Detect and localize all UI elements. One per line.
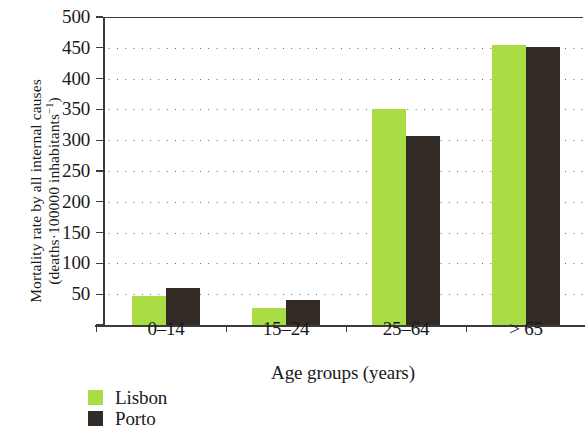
x-axis-tick	[346, 325, 347, 332]
y-axis-tick-label: 400	[62, 67, 96, 89]
y-axis-tick-label: 350	[62, 98, 96, 120]
x-axis-category-label: 25–64	[383, 318, 430, 340]
y-axis-tick-label: 500	[62, 6, 96, 28]
plot-top-border	[103, 17, 583, 18]
legend-label: Porto	[115, 409, 156, 428]
legend-item-lisbon: Lisbon	[88, 387, 167, 408]
x-axis-category-label: > 65	[509, 318, 543, 340]
legend-label: Lisbon	[115, 388, 167, 407]
y-axis-tick: 350	[96, 109, 103, 110]
x-axis-category-label: 15–24	[263, 318, 310, 340]
bar-lisbon-3	[492, 45, 526, 325]
y-axis-tick-label: 100	[62, 252, 96, 274]
y-axis-tick-label: 50	[71, 283, 96, 305]
y-axis-tick: 50	[96, 294, 103, 295]
y-axis-title: Mortality rate by all internal causes (d…	[22, 26, 68, 356]
y-axis-title-line-2-prefix: (deaths·100000 inhabitants	[45, 114, 62, 285]
x-axis-tick	[226, 325, 227, 332]
legend: LisbonPorto	[88, 387, 167, 429]
x-axis-tick	[466, 325, 467, 332]
y-axis-tick: 250	[96, 170, 103, 171]
y-axis-tick: 500	[96, 16, 103, 17]
y-axis-tick: 400	[96, 78, 103, 79]
y-axis-tick: 300	[96, 140, 103, 141]
x-axis-tick	[96, 325, 97, 332]
bar-chart-figure: Mortality rate by all internal causes (d…	[0, 0, 586, 431]
y-axis-title-line-2: (deaths·100000 inhabitants−1)	[45, 97, 63, 285]
bar-lisbon-2	[372, 109, 406, 325]
legend-swatch-lisbon	[88, 390, 103, 405]
bar-porto-3	[526, 47, 560, 325]
y-axis-tick-label: 250	[62, 160, 96, 182]
legend-swatch-porto	[88, 411, 103, 426]
x-axis-title: Age groups (years)	[103, 362, 583, 384]
bar-porto-2	[406, 136, 440, 325]
y-axis-tick-label: 450	[62, 36, 96, 58]
y-axis-title-exponent: −1	[44, 102, 55, 113]
y-axis-tick-label: 200	[62, 190, 96, 212]
plot-area: 50100150200250300350400450500	[103, 17, 583, 325]
y-axis-tick: 100	[96, 263, 103, 264]
y-axis-tick: 150	[96, 232, 103, 233]
y-axis-tick-label: 150	[62, 221, 96, 243]
y-axis-tick: 450	[96, 47, 103, 48]
x-axis-category-label: 0–14	[147, 318, 184, 340]
y-axis-tick: 200	[96, 201, 103, 202]
y-axis-tick-label: 300	[62, 129, 96, 151]
y-axis-title-line-1: Mortality rate by all internal causes	[27, 79, 45, 303]
legend-item-porto: Porto	[88, 408, 167, 429]
y-axis-title-line-2-suffix: )	[45, 97, 62, 102]
